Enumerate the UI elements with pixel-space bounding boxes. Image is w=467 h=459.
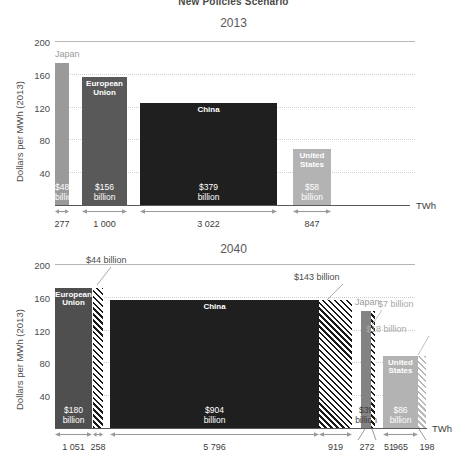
callout-european-union-2040: $44 billion	[86, 255, 127, 265]
bar-additional-united-states-2040[interactable]	[418, 356, 426, 428]
ytick-80-2013: 80	[39, 135, 50, 146]
bar-united-states-2040[interactable]: UnitedStates $86billion	[383, 356, 418, 428]
ytick-200-2013: 200	[34, 37, 50, 48]
leader-line-japan-twh-2040	[356, 429, 378, 441]
bar-label-european-union-2040: EuropeanUnion	[55, 291, 92, 308]
dimension-arrow-united-states-2040	[383, 431, 418, 438]
leader-line-united-states-2040	[415, 336, 431, 356]
y-axis-label-2013: Dollars per MWh (2013)	[14, 81, 25, 182]
panel-2013-title: 2013	[0, 16, 467, 30]
dimension-arrow-european-union-2040	[55, 431, 92, 438]
bar-value-china-2013: $379billion	[140, 183, 277, 202]
ytick-120-2040: 120	[34, 325, 50, 336]
bar-value-japan-2013: $48billion	[55, 183, 69, 202]
ytick-120-2013: 120	[34, 102, 50, 113]
bar-european-union-2040[interactable]: EuropeanUnion $180billion	[55, 288, 92, 428]
bar-label-china-2040: China	[110, 303, 319, 312]
dimension-value-additional-china-2040: 919	[328, 442, 343, 452]
dimension-value-japan-2013: 277	[54, 219, 69, 229]
y-axis-label-2040: Dollars per MWh (2013)	[14, 309, 25, 410]
dimension-value-china-2013: 3 022	[197, 219, 220, 229]
bar-european-union-2013[interactable]: EuropeanUnion $156billion	[82, 77, 127, 205]
leader-line-china-2040	[325, 284, 345, 301]
dimension-value-china-2040: 5 796	[203, 442, 226, 452]
x-axis-baseline-2013	[55, 205, 410, 206]
bar-value-china-2040: $904billion	[110, 406, 319, 425]
dimension-arrow-china-2040	[110, 431, 319, 438]
bar-label-united-states-2040: UnitedStates	[383, 359, 418, 376]
bar-china-2040[interactable]: China $904billion	[110, 300, 319, 428]
callout-china-2040: $143 billion	[294, 272, 340, 282]
ytick-160-2013: 160	[34, 69, 50, 80]
x-axis-unit-2013: TWh	[416, 200, 436, 211]
bar-value-european-union-2013: $156billion	[82, 183, 127, 202]
dimension-arrow-japan-2013	[55, 208, 69, 215]
dimension-arrow-european-union-2013	[82, 208, 127, 215]
bar-label-china-2013: China	[140, 106, 277, 115]
bar-additional-european-union-2040[interactable]	[93, 288, 103, 428]
bar-united-states-2013[interactable]: UnitedStates $58billion	[293, 149, 331, 205]
dimension-arrow-united-states-2013	[293, 208, 331, 215]
dimension-value-japan-2040: 272	[359, 442, 374, 452]
ytick-80-2040: 80	[39, 358, 50, 369]
leader-line-us-additional-twh-2040	[415, 429, 431, 441]
panel-2040: 2040 Dollars per MWh (2013) 200 160 120 …	[0, 240, 467, 459]
panel-2013: 2013 Dollars per MWh (2013) 200 160 120 …	[0, 0, 467, 240]
dimension-value-european-union-2013: 1 000	[93, 219, 116, 229]
dimension-value-additional-european-union-2040: 258	[90, 442, 105, 452]
dimension-value-united-states-2013: 847	[304, 219, 319, 229]
plot-area-2013: 200 160 120 80 40 Japan $48billion Europ…	[55, 41, 415, 205]
callout-japan-2040: $7 billion	[378, 299, 414, 309]
gridline-200-2013: 200	[55, 41, 415, 42]
bar-value-united-states-2013: $58billion	[293, 183, 331, 202]
panel-2040-title: 2040	[0, 242, 467, 256]
bar-value-united-states-2040: $86billion	[383, 406, 418, 425]
bar-china-2013[interactable]: China $379billion	[140, 103, 277, 206]
ytick-200-2040: 200	[34, 260, 50, 271]
dimension-arrow-china-2013	[140, 208, 277, 215]
dimension-value-united-states-2040: 965	[393, 442, 408, 452]
ytick-160-2040: 160	[34, 292, 50, 303]
bar-japan-2013[interactable]: Japan $48billion	[55, 63, 69, 205]
dimension-arrow-additional-european-union-2040	[93, 431, 103, 438]
leader-line-european-union-2040	[95, 267, 113, 286]
ytick-40-2040: 40	[39, 391, 50, 402]
gridline-160-2013: 160	[55, 74, 415, 75]
bar-value-japan-2040: $39billion	[348, 406, 384, 425]
bar-label-european-union-2013: EuropeanUnion	[82, 80, 127, 97]
bar-label-united-states-2013: UnitedStates	[293, 152, 331, 169]
bar-label-japan-2013: Japan	[55, 50, 69, 60]
callout-united-states-2040: $18 billion	[366, 324, 407, 334]
dimension-value-additional-united-states-2040: 198	[419, 442, 434, 452]
bar-value-european-union-2040: $180billion	[55, 406, 92, 425]
ytick-40-2013: 40	[39, 168, 50, 179]
dimension-arrow-additional-china-2040	[319, 431, 352, 438]
x-axis-unit-2040: TWh	[432, 423, 452, 434]
plot-area-2040: 200 160 120 80 40 EuropeanUnion $180bill…	[55, 264, 415, 428]
dimension-value-european-union-2040: 1 051	[62, 442, 85, 452]
